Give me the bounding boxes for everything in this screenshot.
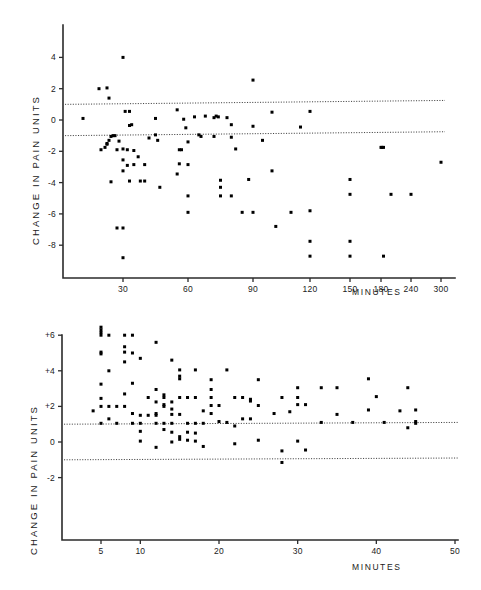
data-point <box>296 403 299 406</box>
lower-x-tick-label: 10 <box>135 546 145 556</box>
data-point <box>155 412 158 415</box>
data-point <box>114 134 117 137</box>
data-point <box>187 140 190 143</box>
data-point <box>252 79 255 82</box>
data-point <box>116 226 119 229</box>
data-point <box>336 386 339 389</box>
data-point <box>147 396 150 399</box>
lower-reference-line <box>64 422 458 424</box>
data-point <box>123 360 126 363</box>
data-point <box>178 435 181 438</box>
data-point <box>122 226 125 229</box>
upper-scatter-panel: CHANGE IN PAIN UNITS MINUTES 420-2-4-6-8… <box>0 0 481 300</box>
upper-plot-area: 420-2-4-6-8306090120150180240300 <box>0 0 481 300</box>
data-point <box>230 136 233 139</box>
data-point <box>170 400 173 403</box>
data-point <box>131 412 134 415</box>
data-point <box>233 442 236 445</box>
data-point <box>155 422 158 425</box>
data-point <box>154 133 157 136</box>
data-point <box>204 115 207 118</box>
data-point <box>202 445 205 448</box>
data-point <box>186 396 189 399</box>
data-point <box>123 345 126 348</box>
data-point <box>104 146 107 149</box>
data-point <box>233 396 236 399</box>
data-point <box>122 56 125 59</box>
data-point <box>309 255 312 258</box>
data-point <box>123 334 126 337</box>
lower-x-tick-label: 5 <box>99 546 104 556</box>
data-point <box>155 388 158 391</box>
data-point <box>398 409 401 412</box>
data-point <box>162 428 165 431</box>
upper-reference-line <box>65 100 445 104</box>
data-point <box>110 180 113 183</box>
data-point <box>367 408 370 411</box>
data-point <box>290 211 293 214</box>
lower-y-tick-label: +4 <box>45 366 55 376</box>
data-point <box>288 410 291 413</box>
data-point <box>200 135 203 138</box>
data-point <box>241 417 244 420</box>
data-point <box>280 396 283 399</box>
data-point <box>139 422 142 425</box>
data-point <box>176 172 179 175</box>
data-point <box>143 180 146 183</box>
data-point <box>233 424 236 427</box>
data-point <box>139 180 142 183</box>
upper-reference-line <box>65 132 445 136</box>
lower-y-tick-label: -2 <box>47 473 55 483</box>
data-point <box>107 369 110 372</box>
data-point <box>186 439 189 442</box>
data-point <box>178 368 181 371</box>
data-point <box>349 193 352 196</box>
upper-y-tick-label: -4 <box>48 178 56 188</box>
data-point <box>178 396 181 399</box>
data-point <box>178 377 181 380</box>
lower-reference-line <box>64 458 458 460</box>
data-point <box>162 396 165 399</box>
data-point <box>122 158 125 161</box>
upper-y-tick-label: 4 <box>51 52 56 62</box>
data-point <box>202 409 205 412</box>
data-point <box>309 240 312 243</box>
data-point <box>367 377 370 380</box>
data-point <box>217 115 220 118</box>
data-point <box>130 123 133 126</box>
data-point <box>273 412 276 415</box>
data-point <box>137 155 140 158</box>
upper-y-tick-label: -6 <box>48 209 56 219</box>
upper-y-tick-label: 2 <box>51 84 56 94</box>
data-point <box>225 421 228 424</box>
data-point <box>257 404 260 407</box>
data-point <box>241 211 244 214</box>
data-point <box>156 139 159 142</box>
lower-y-tick-label: +6 <box>45 330 55 340</box>
data-point <box>194 368 197 371</box>
lower-x-tick-label: 40 <box>371 546 381 556</box>
data-point <box>210 378 213 381</box>
data-point <box>349 255 352 258</box>
data-point <box>271 111 274 114</box>
data-point <box>304 403 307 406</box>
data-point <box>170 431 173 434</box>
data-point <box>180 148 183 151</box>
data-point <box>219 186 222 189</box>
data-point <box>118 140 121 143</box>
data-point <box>202 422 205 425</box>
data-point <box>170 422 173 425</box>
data-point <box>178 413 181 416</box>
upper-x-tick-label: 120 <box>303 284 318 294</box>
data-point <box>122 256 125 259</box>
data-point <box>100 397 103 400</box>
data-point <box>158 186 161 189</box>
data-point <box>320 386 323 389</box>
data-point <box>210 412 213 415</box>
data-point <box>193 115 196 118</box>
data-point <box>122 169 125 172</box>
data-point <box>128 180 131 183</box>
upper-x-tick-label: 150 <box>343 284 358 294</box>
data-point <box>178 162 181 165</box>
data-point <box>274 225 277 228</box>
